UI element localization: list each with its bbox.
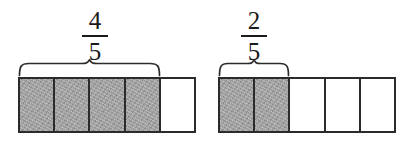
fraction-numerator: 4	[75, 8, 115, 33]
bar-cell	[220, 79, 255, 131]
bar-cell	[55, 79, 90, 131]
bar-cell	[255, 79, 290, 131]
fraction-bar	[241, 35, 267, 37]
fraction-label-right: 2 5	[234, 8, 274, 64]
fraction-numerator: 2	[234, 8, 274, 33]
bar-model-right	[218, 77, 396, 133]
bar-cell	[361, 79, 394, 131]
bar-model-left	[18, 77, 196, 133]
fraction-figure: 4 5 2 5	[0, 0, 415, 156]
bar-cell	[90, 79, 125, 131]
bar-cell	[126, 79, 161, 131]
bar-cell	[20, 79, 55, 131]
bar-cell	[290, 79, 325, 131]
bar-cell	[326, 79, 361, 131]
brace-right	[218, 59, 290, 76]
bar-cell	[161, 79, 194, 131]
fraction-label-left: 4 5	[75, 8, 115, 64]
fraction-bar	[82, 35, 108, 37]
brace-left	[18, 59, 161, 76]
